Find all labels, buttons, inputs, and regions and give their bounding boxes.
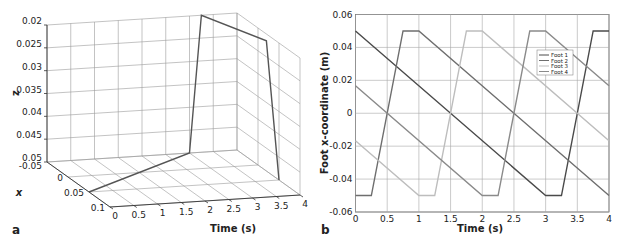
x-tick-label: 0.5 [380,214,394,224]
x-tick-label: -0.05 [19,161,42,171]
time-tick-label: 4 [302,199,308,209]
x-tick-label: 2.5 [507,214,521,224]
y-tick-label: 0.02 [332,75,352,85]
x-tick-label: 1.5 [443,214,457,224]
y-tick-label: -0.06 [329,207,353,217]
x-axis-label: x [15,187,23,198]
grid-3d [47,13,300,207]
x-tick-label: 0.05 [64,188,84,198]
legend: Foot 1Foot 2Foot 3Foot 4 [537,50,573,75]
time-tick-label: 2 [207,205,213,215]
z-tick-label: 0.02 [22,16,42,26]
x-tick-label: 3.5 [570,214,584,224]
y-axis-label: Foot x-coordinate (m) [319,52,330,175]
z-tick-label: 0.045 [16,130,42,140]
chart-3d-foot-trajectory: 0.020.0250.030.0350.040.0450.05-0.0500.0… [10,13,308,237]
y-tick-label: 0.04 [332,42,352,52]
figure: 0.020.0250.030.0350.040.0450.05-0.0500.0… [0,0,623,241]
x-tick-label: 0 [353,214,359,224]
z-axis-label: z [10,90,21,96]
panel-label-b: b [321,223,330,237]
x-tick-label: 0 [57,173,63,183]
time-tick-label: 0.5 [132,210,146,220]
panel-label-a: a [12,223,20,237]
time-tick-label: 1.5 [179,207,193,217]
chart-foot-x-coordinate: 00.511.522.533.540.060.040.020-0.02-0.04… [319,10,612,238]
time-tick-label: 3.5 [274,201,288,211]
time-axis-label: Time (s) [210,223,256,234]
legend-label: Foot 4 [551,69,569,75]
y-tick-label: -0.04 [329,174,353,184]
time-tick-label: 2.5 [227,204,241,214]
z-tick-label: 0.03 [22,62,42,72]
x-tick-label: 1 [416,214,422,224]
time-tick-label: 3 [255,202,261,212]
z-tick-label: 0.025 [16,39,42,49]
time-tick-label: 0 [112,211,118,221]
y-tick-label: 0.06 [332,10,352,20]
x-axis-label-b: Time (s) [457,223,503,234]
y-tick-label: 0 [347,108,353,118]
y-tick-label: -0.02 [329,141,352,151]
time-tick-label: 1 [160,208,166,218]
x-tick-label: 4 [606,214,612,224]
x-tick-label: 3 [543,214,549,224]
x-tick-label: 0.1 [91,203,105,213]
z-tick-label: 0.04 [22,107,42,117]
